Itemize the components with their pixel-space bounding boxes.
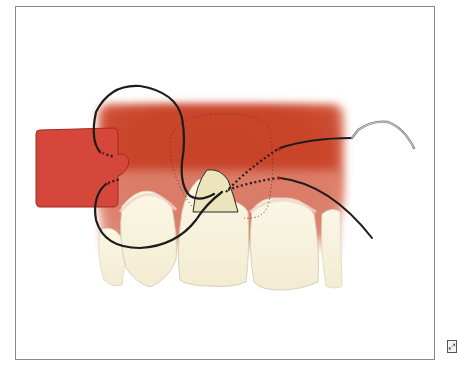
tooth-right-incisor [250, 198, 318, 290]
connective-tissue-graft [36, 128, 129, 207]
tooth-lateral-incisor [121, 191, 177, 287]
tooth-right-partial [322, 209, 343, 288]
suture-needle [352, 122, 414, 148]
expand-glyph: ⤢ [449, 342, 455, 351]
expand-icon[interactable]: ⤢ [447, 340, 457, 353]
